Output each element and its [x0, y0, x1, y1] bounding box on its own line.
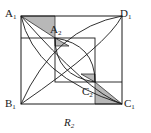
arc-a1	[21, 16, 122, 104]
arc-b1	[21, 16, 122, 104]
outer-square	[21, 16, 122, 104]
outer-arcs	[21, 16, 122, 104]
label-c1: C1	[124, 98, 135, 109]
label-d1: D1	[120, 8, 131, 19]
figure-caption: R2	[64, 116, 74, 128]
label-a1: A1	[5, 8, 16, 19]
shaded-regions	[21, 16, 122, 104]
label-c2: C2	[82, 86, 93, 97]
arc-d1	[21, 16, 122, 104]
label-b1: B1	[5, 98, 16, 109]
shaded-triangle-bottom-right	[95, 82, 122, 104]
label-a2: A2	[50, 24, 61, 35]
arc-c1	[21, 16, 122, 104]
geometry-figure: A1 D1 B1 C1 A2 C2 R2	[0, 0, 151, 133]
